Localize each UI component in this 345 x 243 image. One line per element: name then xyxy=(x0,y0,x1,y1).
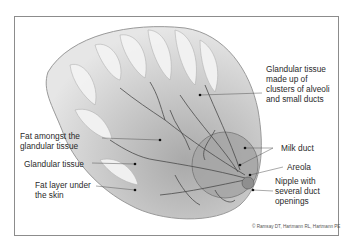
label-glandular-tissue: Glandular tissue xyxy=(24,159,84,169)
label-areola: Areola xyxy=(287,162,311,172)
label-fat-layer-under-skin: Fat layer under the skin xyxy=(35,180,91,200)
label-glandular-tissue-clusters: Glandular tissue made up of clusters of … xyxy=(266,64,330,104)
copyright-credit: © Ramsay DT, Hartmann RL, Hartmann PE xyxy=(252,224,340,229)
label-milk-duct: Milk duct xyxy=(281,143,314,153)
label-nipple: Nipple with several duct openings xyxy=(275,176,320,206)
nipple-shape xyxy=(242,177,254,189)
label-fat-amongst-glandular: Fat amongst the glandular tissue xyxy=(20,131,80,151)
breast-anatomy-illustration xyxy=(0,0,345,243)
